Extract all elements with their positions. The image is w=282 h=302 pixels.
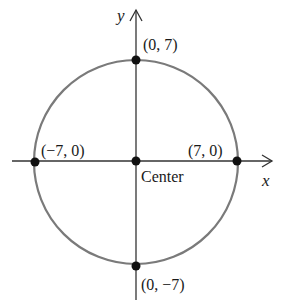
point-bottom: [132, 262, 141, 271]
label-center: Center: [141, 168, 184, 185]
diagram-svg: y x (0, 7) (0, −7) (−7, 0) (7, 0) Center: [0, 0, 282, 302]
x-axis-label: x: [261, 171, 270, 190]
label-top: (0, 7): [143, 36, 178, 54]
y-axis-label: y: [115, 6, 125, 25]
y-axis: [130, 10, 142, 300]
point-left: [31, 158, 40, 167]
circle-diagram: y x (0, 7) (0, −7) (−7, 0) (7, 0) Center: [0, 0, 282, 302]
label-right: (7, 0): [188, 142, 223, 160]
label-bottom: (0, −7): [141, 276, 185, 294]
point-top: [132, 56, 141, 65]
label-left: (−7, 0): [41, 142, 85, 160]
point-center: [132, 157, 141, 166]
point-right: [233, 157, 242, 166]
